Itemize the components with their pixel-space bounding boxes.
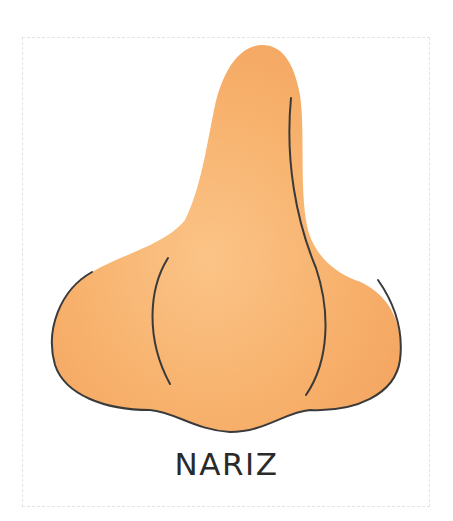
nose-illustration bbox=[0, 0, 453, 521]
nose-body bbox=[52, 45, 401, 432]
word-label: NARIZ bbox=[0, 446, 453, 482]
